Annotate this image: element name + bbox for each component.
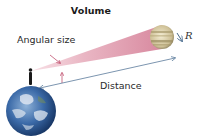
angular-cone: [31, 25, 162, 71]
angular-size-label: Angular size: [17, 34, 75, 45]
angular-pointer-top: [50, 55, 60, 63]
jupiter-planet-icon: [150, 25, 174, 49]
earth-globe-icon: [6, 86, 56, 136]
diagram-canvas: [0, 0, 198, 139]
observer-figure-icon: [29, 68, 33, 85]
radius-label: R: [185, 30, 193, 41]
radius-arrow-icon: [177, 33, 182, 41]
distance-label: Distance: [100, 80, 142, 91]
